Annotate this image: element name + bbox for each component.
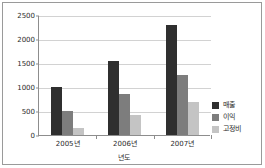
y-axis-tick-label: 2000 [17,37,35,44]
chart-legend: 매출이익고정비 [212,101,241,133]
legend-swatch-icon [212,126,219,133]
bar [73,128,84,135]
legend-item[interactable]: 이익 [212,113,241,121]
bar [188,102,199,135]
legend-swatch-icon [212,114,219,121]
bar [51,87,62,135]
y-axis-tick-label: 1500 [17,61,35,68]
legend-item[interactable]: 고정비 [212,125,241,133]
legend-item[interactable]: 매출 [212,101,241,109]
x-axis-tick-label: 2005년 [56,140,80,148]
y-axis-tick-mark [36,136,39,137]
y-axis-tick-label: 0 [31,133,35,140]
bar-chart: 050010001500200025002005년2006년2007년 년도 매… [0,0,265,168]
x-axis-tick-mark [211,135,212,139]
x-axis-tick-mark [96,135,97,139]
y-axis-tick-label: 2500 [17,13,35,20]
x-axis-title: 년도 [38,154,210,162]
x-axis-tick-label: 2007년 [170,140,194,148]
plot-area: 050010001500200025002005년2006년2007년 [38,16,210,136]
x-axis-tick-label: 2006년 [113,140,137,148]
bar [119,94,130,135]
x-axis-tick-mark [154,135,155,139]
bar [166,25,177,135]
bar-group [39,15,96,135]
legend-item-label: 이익 [223,113,235,121]
bar [130,115,141,135]
bar [108,61,119,135]
y-axis-tick-label: 1000 [17,85,35,92]
legend-item-label: 매출 [223,101,235,109]
bar [62,111,73,135]
legend-swatch-icon [212,102,219,109]
legend-item-label: 고정비 [223,125,241,133]
bar [177,75,188,135]
bar-group [96,15,153,135]
bar-group [154,15,211,135]
y-axis-tick-label: 500 [22,109,35,116]
